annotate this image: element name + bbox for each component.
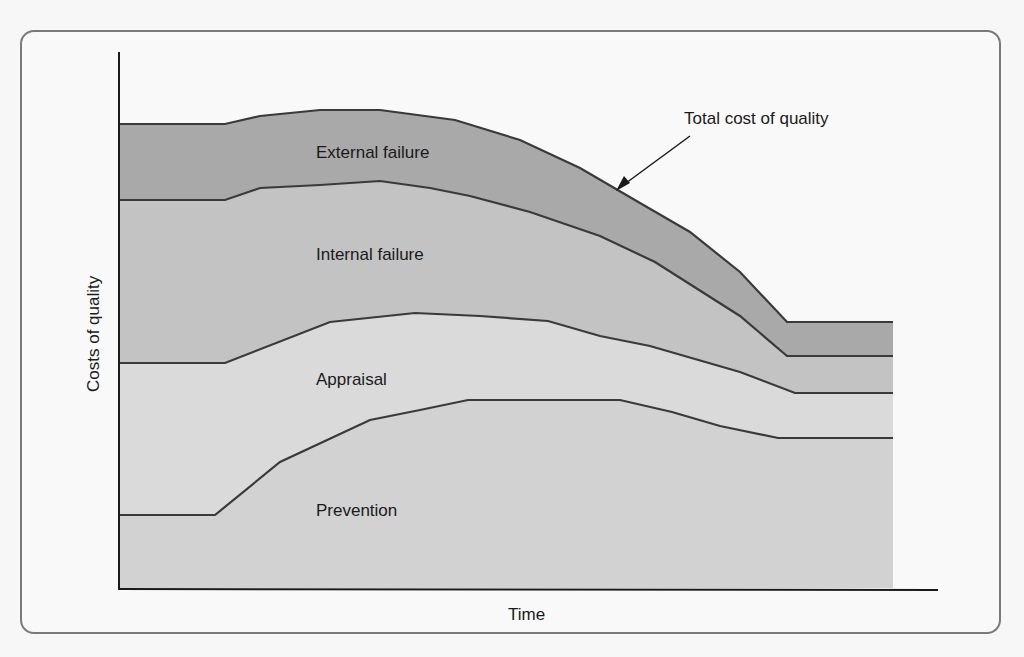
appraisal-label: Appraisal	[316, 370, 387, 389]
total-cost-annotation: Total cost of quality	[684, 109, 829, 128]
arrowhead-icon	[616, 176, 630, 191]
external-failure-label: External failure	[316, 143, 429, 162]
x-axis	[118, 589, 938, 590]
internal-failure-label: Internal failure	[316, 245, 424, 264]
annotation-arrow-shaft	[622, 136, 690, 186]
y-axis-label: Costs of quality	[84, 275, 103, 392]
cost-of-quality-chart: External failure Internal failure Apprai…	[0, 0, 1024, 657]
x-axis-label: Time	[508, 605, 545, 624]
prevention-label: Prevention	[316, 501, 397, 520]
